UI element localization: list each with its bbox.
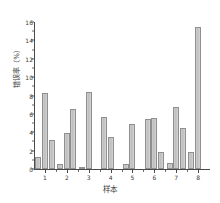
bar [70,109,76,169]
bar [145,119,151,169]
x-tick-label: 1 [39,174,51,181]
bar [129,124,135,169]
x-tick-label: 4 [105,174,117,181]
x-tick-minor-mark [187,170,188,172]
bar [108,137,114,169]
x-tick-label: 8 [192,174,204,181]
bar [86,92,92,169]
bar [35,157,41,169]
bar [42,93,48,169]
bar [49,140,55,169]
x-tick-mark [198,170,199,173]
plot-area [34,22,209,169]
x-tick-minor-mark [78,170,79,172]
x-tick-mark [89,170,90,173]
x-axis-label: 样本 [0,183,220,194]
bar [57,164,63,169]
bar [123,164,129,170]
bar [101,117,107,169]
x-tick-label: 3 [83,174,95,181]
x-tick-mark [67,170,68,173]
x-tick-label: 5 [126,174,138,181]
x-tick-mark [154,170,155,173]
bar-chart: 错误率（%） 0246810121416 样本 12345678 [0,0,220,203]
bar [180,128,186,169]
x-tick-label: 7 [170,174,182,181]
bar [195,27,201,169]
x-tick-minor-mark [56,170,57,172]
x-tick-label: 2 [61,174,73,181]
bar [167,163,173,169]
x-tick-minor-mark [165,170,166,172]
x-tick-mark [111,170,112,173]
x-tick-label: 6 [148,174,160,181]
x-tick-minor-mark [122,170,123,172]
bar [64,133,70,169]
bar [151,118,157,169]
bar [79,167,85,169]
bar [173,107,179,169]
x-tick-mark [176,170,177,173]
x-tick-mark [45,170,46,173]
bar [158,152,164,169]
x-tick-minor-mark [100,170,101,172]
x-tick-minor-mark [143,170,144,172]
bar [188,152,194,169]
x-tick-mark [132,170,133,173]
